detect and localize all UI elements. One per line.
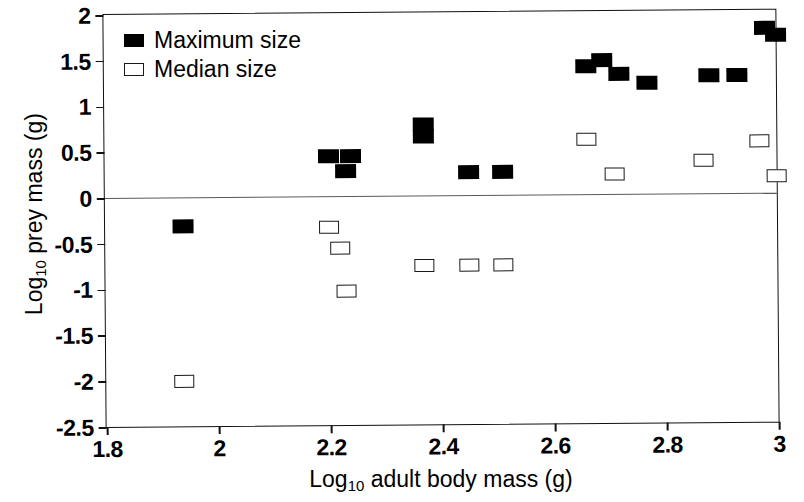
data-point-marker <box>173 220 194 234</box>
data-point-marker <box>694 154 714 167</box>
y-axis-tick: 2 <box>95 15 103 17</box>
x-axis-tick: 1.8 <box>107 427 109 435</box>
y-axis-tick-label: -1.5 <box>55 323 93 350</box>
legend-item-maximum-size: Maximum size <box>124 26 301 55</box>
data-point-marker <box>413 129 434 143</box>
zero-reference-line <box>105 193 777 199</box>
filled-square-icon <box>124 34 144 47</box>
x-axis-tick-label: 2 <box>213 435 226 462</box>
y-axis-tick-label: 1 <box>79 94 92 121</box>
data-point-marker <box>726 68 747 82</box>
y-axis-tick: -2.5 <box>99 427 107 429</box>
data-point-marker <box>318 149 339 163</box>
x-axis-title-subscript: 10 <box>348 477 365 494</box>
legend-item-label: Median size <box>154 56 277 83</box>
data-point-marker <box>604 167 624 180</box>
x-axis-tick: 2.2 <box>331 425 333 433</box>
open-square-icon <box>124 63 144 76</box>
data-point-marker <box>765 27 786 41</box>
data-point-marker <box>492 165 513 179</box>
data-point-marker <box>458 165 479 179</box>
x-axis-tick-label: 2.6 <box>540 432 571 459</box>
data-point-marker <box>414 259 434 272</box>
x-axis-tick: 2 <box>219 426 221 434</box>
y-axis-tick: -1 <box>98 290 106 292</box>
data-point-marker <box>576 133 596 146</box>
x-axis-tick: 2.4 <box>443 424 445 432</box>
y-axis-title: Log10 prey mass (g) <box>21 14 49 414</box>
y-axis-tick-label: -2 <box>74 369 94 396</box>
legend: Maximum size Median size <box>124 26 301 84</box>
data-point-marker <box>335 164 356 178</box>
y-axis-title-subscript: 10 <box>32 260 49 277</box>
x-axis-tick-label: 1.8 <box>92 436 123 463</box>
data-point-marker <box>330 242 350 255</box>
data-point-marker <box>175 375 195 388</box>
y-axis-tick-label: 2 <box>78 2 91 29</box>
data-point-marker <box>319 221 339 234</box>
legend-item-label: Maximum size <box>154 27 301 54</box>
data-point-marker <box>637 76 658 90</box>
x-axis-tick-label: 2.2 <box>316 434 347 461</box>
y-axis-tick: 1.5 <box>96 61 104 63</box>
data-point-marker <box>493 258 513 271</box>
data-point-marker <box>459 258 479 271</box>
data-point-marker <box>750 134 770 147</box>
y-axis-tick: 1 <box>96 107 104 109</box>
scatter-plot-figure: Log10 prey mass (g) Log10 adult body mas… <box>0 0 804 502</box>
x-axis-tick: 2.8 <box>667 423 669 431</box>
x-axis-tick-label: 2.8 <box>652 431 683 458</box>
x-axis-tick-label: 2.4 <box>428 433 459 460</box>
x-axis-tick-label: 3 <box>773 431 786 458</box>
data-point-marker <box>592 53 613 67</box>
y-axis-tick-label: -0.5 <box>54 231 92 258</box>
y-axis-tick-label: -2.5 <box>56 414 94 441</box>
x-axis-title-suffix: adult body mass (g) <box>364 466 572 492</box>
x-axis-title-prefix: Log <box>309 466 347 492</box>
data-point-marker <box>336 285 356 298</box>
data-point-marker <box>698 68 719 82</box>
data-point-marker <box>340 149 361 163</box>
y-axis-tick: 0.5 <box>96 152 104 154</box>
y-axis-tick-label: 1.5 <box>60 48 91 75</box>
x-axis-title: Log10 adult body mass (g) <box>104 466 778 494</box>
x-axis-tick: 2.6 <box>555 423 557 431</box>
y-axis-tick-label: -1 <box>73 277 93 304</box>
y-axis-title-prefix: Log <box>21 277 47 315</box>
y-axis-tick: -2 <box>98 381 106 383</box>
y-axis-tick: -1.5 <box>98 335 106 337</box>
data-point-marker <box>608 67 629 81</box>
legend-item-median-size: Median size <box>124 55 301 84</box>
y-axis-tick-label: 0 <box>79 186 92 213</box>
y-axis-tick: 0 <box>97 198 105 200</box>
y-axis-tick-label: 0.5 <box>61 140 92 167</box>
y-axis-title-suffix: prey mass (g) <box>21 113 47 260</box>
data-point-marker <box>767 169 787 182</box>
y-axis-tick: -0.5 <box>97 244 105 246</box>
x-axis-tick: 3 <box>779 422 781 430</box>
